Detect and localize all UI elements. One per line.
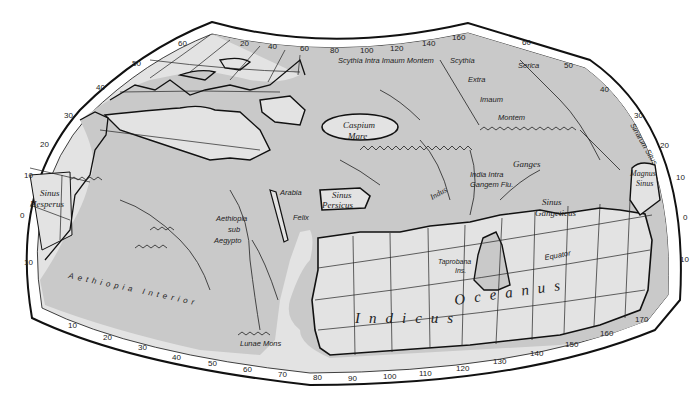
label-aethiopia-sub: Aethiopia	[215, 214, 247, 223]
svg-text:80: 80	[330, 46, 339, 55]
svg-text:10: 10	[68, 321, 77, 330]
label-caspium: Caspium	[343, 120, 376, 130]
svg-text:170: 170	[635, 315, 649, 324]
label-lunae-mons: Lunae Mons	[240, 339, 282, 348]
label-mare: Mare	[347, 131, 367, 141]
svg-text:150: 150	[565, 340, 579, 349]
svg-text:100: 100	[383, 372, 397, 381]
svg-text:70: 70	[278, 370, 287, 379]
label-magnus-sinus: Sinus	[636, 179, 653, 188]
svg-text:40: 40	[96, 83, 105, 92]
svg-text:90: 90	[348, 374, 357, 383]
label-serica: Serica	[518, 61, 539, 70]
svg-text:40: 40	[600, 85, 609, 94]
svg-text:50: 50	[564, 61, 573, 70]
label-sub: sub	[228, 225, 240, 234]
svg-text:140: 140	[530, 349, 544, 358]
svg-text:80: 80	[313, 373, 322, 382]
svg-text:10: 10	[676, 173, 685, 182]
svg-text:60: 60	[178, 39, 187, 48]
label-scythia-intra: Scythia Intra Imaum Montem	[338, 56, 434, 65]
svg-text:40: 40	[268, 42, 277, 51]
label-taprobana: Taprobana	[438, 258, 471, 266]
svg-text:130: 130	[493, 357, 507, 366]
svg-text:20: 20	[40, 140, 49, 149]
label-montem: Montem	[498, 113, 525, 122]
label-sinus-gangeticus-2: Gangeticus	[535, 208, 576, 218]
label-ins: Ins.	[455, 267, 466, 274]
svg-text:30: 30	[64, 111, 73, 120]
svg-text:100: 100	[360, 46, 374, 55]
svg-text:50: 50	[208, 359, 217, 368]
svg-text:40: 40	[172, 353, 181, 362]
svg-text:160: 160	[600, 329, 614, 338]
label-sinus-persicus-2: Persicus	[321, 200, 353, 210]
label-sinus-hesperus-2: Hesperus	[29, 199, 64, 209]
svg-text:20: 20	[103, 333, 112, 342]
svg-text:110: 110	[419, 369, 432, 378]
svg-text:10: 10	[24, 258, 33, 267]
label-felix: Felix	[293, 213, 309, 222]
svg-text:60: 60	[243, 365, 252, 374]
svg-text:0: 0	[683, 213, 688, 222]
svg-text:120: 120	[456, 364, 470, 373]
label-gangem-flu: Gangem Flu.	[470, 180, 513, 189]
svg-text:60: 60	[300, 44, 309, 53]
svg-text:30: 30	[138, 343, 147, 352]
label-indicus: Indicus	[354, 310, 462, 326]
svg-text:120: 120	[390, 44, 404, 53]
svg-text:30: 30	[634, 111, 643, 120]
label-arabia: Arabia	[279, 188, 302, 197]
svg-text:160: 160	[452, 33, 466, 42]
label-sinus-hesperus-1: Sinus	[40, 188, 60, 198]
label-india-intra: India Intra	[470, 170, 503, 179]
label-imaum: Imaum	[480, 95, 503, 104]
label-aegypto: Aegypto	[213, 236, 242, 245]
svg-text:10: 10	[24, 171, 33, 180]
label-sinus-gangeticus-1: Sinus	[542, 197, 562, 207]
label-ganges: Ganges	[513, 159, 541, 169]
svg-text:10: 10	[680, 255, 689, 264]
world-map: 20 40 60 80 100 120 140 160 60 50 40 30 …	[0, 0, 700, 393]
svg-text:20: 20	[240, 39, 249, 48]
label-magnus: Magnus	[629, 169, 656, 178]
svg-text:20: 20	[660, 141, 669, 150]
label-sinus-persicus-1: Sinus	[332, 190, 352, 200]
svg-text:60: 60	[522, 38, 531, 47]
svg-text:140: 140	[422, 39, 436, 48]
label-extra: Extra	[468, 75, 486, 84]
label-scythia: Scythia	[450, 56, 475, 65]
svg-text:0: 0	[20, 211, 25, 220]
svg-text:50: 50	[132, 59, 141, 68]
